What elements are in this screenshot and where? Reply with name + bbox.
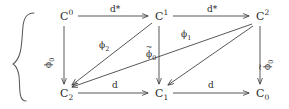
edge-label-d-bottom-left: d xyxy=(112,81,118,90)
edge-label-d-bottom-right: d xyxy=(208,81,214,90)
diagram-canvas: C0 C1 C2 C2 C1 C0 d* d* d d ϕ0 ϕ2 ~ϕ0 ϕ1… xyxy=(0,0,289,109)
node-C-superscript-1: C1 xyxy=(155,11,168,22)
left-curly-brace-stroke xyxy=(13,13,34,101)
node-C-superscript-2: C2 xyxy=(256,11,269,22)
edge-label-phi-2-diagonal: ϕ1 xyxy=(181,30,191,39)
edge-label-phi-1-diagonal-left: ϕ2 xyxy=(99,41,109,50)
node-C-subscript-2: C2 xyxy=(60,88,73,99)
node-C-superscript-0: C0 xyxy=(60,11,73,22)
edge-diagonal-phi2 xyxy=(72,24,252,87)
edge-label-phi-0-left-vertical: ϕ0 xyxy=(44,58,53,68)
edge-diagonal-phi1-left xyxy=(72,23,152,85)
node-C-subscript-1: C1 xyxy=(155,88,168,99)
edge-label-d-star-top-right: d* xyxy=(207,5,217,14)
edge-label-phi-0-tilde-right-vertical: ~ϕ0 xyxy=(263,60,272,70)
edge-label-d-star-top-left: d* xyxy=(110,5,120,14)
diagram-graphics xyxy=(0,0,289,109)
node-C-subscript-0: C0 xyxy=(256,88,269,99)
edge-label-phi-0-tilde-middle-vertical: ~ϕ0 xyxy=(146,50,156,59)
